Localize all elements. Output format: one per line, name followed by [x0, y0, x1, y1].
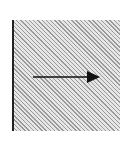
right-arrow-icon — [0, 0, 130, 141]
